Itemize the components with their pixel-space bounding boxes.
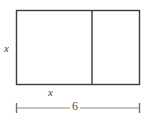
inner-width-label-x: x [48, 87, 53, 98]
geometry-figure: x x 6 [0, 0, 154, 121]
outer-rectangle [17, 11, 140, 85]
height-label-x: x [4, 43, 9, 54]
total-width-label-6: 6 [70, 100, 80, 112]
